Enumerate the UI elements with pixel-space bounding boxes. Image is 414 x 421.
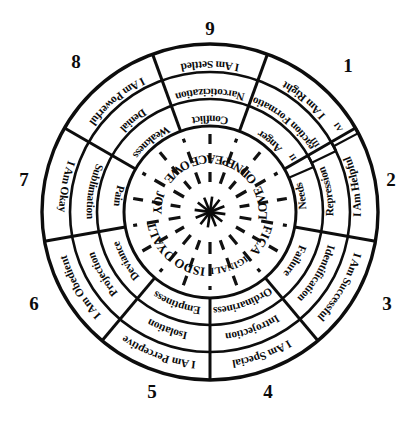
core-label-2: LOVE xyxy=(250,184,270,220)
core-virtue-labels: GOODNESSLOVEEFFICACYORIGINALITYWISDOMLOY… xyxy=(0,0,275,279)
enneagram-diagram: I Am RightI Am HelpfulI Am SuccessfulI A… xyxy=(0,0,414,421)
core-label-5: WISDOM xyxy=(0,0,206,279)
point-number-2: 2 xyxy=(386,169,396,190)
middle-label-9: Narcoticization xyxy=(173,87,245,104)
ring-marker-iv: IV xyxy=(332,121,345,134)
starburst-icon xyxy=(195,197,226,228)
ring-step-divider-0 xyxy=(289,167,314,178)
core-label-9: PEACE xyxy=(188,152,232,169)
core-label-6: LOYALTY xyxy=(0,0,178,264)
outer-label-7: I Am Okay xyxy=(57,160,78,213)
point-number-6: 6 xyxy=(29,293,39,314)
ring-step-arc-2 xyxy=(355,128,358,133)
point-number-9: 9 xyxy=(205,18,215,39)
inner-label-6: Deviance xyxy=(110,240,142,283)
diagram-canvas: I Am RightI Am HelpfulI Am SuccessfulI A… xyxy=(0,0,414,421)
outer-label-2: I Am Helpful xyxy=(341,155,363,217)
inner-label-8: Weakness xyxy=(130,124,172,162)
inner-label-9: Conflict xyxy=(191,114,229,128)
sector-divider-2 xyxy=(295,227,376,241)
core-label-7: JOY xyxy=(150,189,168,215)
middle-label-7: Sublimation xyxy=(85,162,106,220)
point-number-8: 8 xyxy=(71,51,81,72)
point-number-1: 1 xyxy=(343,55,353,76)
sector-divider-6 xyxy=(45,227,126,241)
point-number-7: 7 xyxy=(19,169,29,190)
point-number-3: 3 xyxy=(382,293,392,314)
starburst-hub xyxy=(207,209,213,215)
point-number-4: 4 xyxy=(263,381,273,402)
point-number-5: 5 xyxy=(147,381,157,402)
middle-label-2: Repression xyxy=(315,164,336,216)
